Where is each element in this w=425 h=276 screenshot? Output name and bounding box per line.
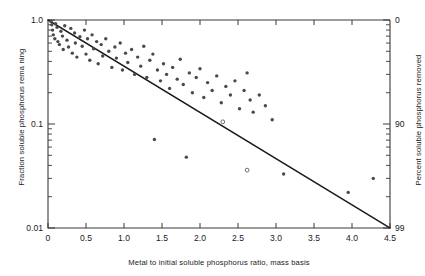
data-point	[220, 101, 223, 104]
data-point	[124, 51, 127, 54]
data-point	[224, 85, 227, 88]
data-point	[92, 47, 95, 50]
data-point	[63, 24, 66, 27]
x-axis-tick-label: 3.5	[308, 233, 320, 243]
data-point	[104, 37, 107, 40]
data-point	[83, 28, 86, 31]
y-axis-label-left: Fraction soluble phosphorus rema ning	[14, 12, 28, 222]
data-point	[221, 120, 225, 124]
data-point	[229, 93, 232, 96]
data-point	[107, 50, 110, 53]
data-point	[210, 89, 213, 92]
data-point	[101, 54, 104, 57]
data-point	[258, 93, 261, 96]
data-point	[69, 27, 72, 30]
data-point	[198, 67, 201, 70]
y-axis-label-right: Percent soluble phosphorus removed	[411, 15, 425, 225]
data-point	[282, 172, 285, 175]
data-point	[168, 87, 171, 90]
y-axis-label-right-text: Percent soluble phosphorus removed	[414, 55, 423, 186]
x-axis-tick-label: 4.0	[346, 233, 358, 243]
data-point	[113, 45, 116, 48]
data-point	[49, 20, 52, 23]
x-axis-tick-label: 4.5	[384, 233, 396, 243]
data-point	[84, 52, 87, 55]
data-point	[81, 44, 84, 47]
data-point	[206, 81, 209, 84]
data-point	[148, 59, 151, 62]
data-point	[96, 62, 99, 65]
data-point	[248, 98, 251, 101]
x-axis-tick-label: 2.0	[194, 233, 206, 243]
data-point	[238, 107, 241, 110]
regression-line	[48, 20, 390, 228]
x-axis-label: Metal to initial soluble phosphorus rati…	[48, 251, 390, 269]
data-point	[264, 104, 267, 107]
data-point	[52, 33, 55, 36]
data-point	[347, 191, 350, 194]
data-point	[191, 91, 194, 94]
data-point	[119, 41, 122, 44]
data-point	[372, 177, 375, 180]
data-point	[126, 61, 129, 64]
data-point	[55, 26, 58, 29]
data-point	[90, 33, 93, 36]
data-point	[61, 34, 64, 37]
data-point	[54, 22, 57, 25]
data-point	[73, 31, 76, 34]
data-point	[78, 35, 81, 38]
data-point	[271, 118, 274, 121]
data-point	[145, 76, 148, 79]
data-point	[133, 73, 136, 76]
data-point	[188, 71, 191, 74]
data-point	[233, 79, 236, 82]
data-point	[242, 89, 245, 92]
x-axis-tick-label: 2.5	[232, 233, 244, 243]
data-point	[202, 96, 205, 99]
y-axis-tick-label: 0.1	[31, 119, 43, 129]
data-point	[195, 76, 198, 79]
data-point	[151, 52, 154, 55]
data-point	[50, 23, 53, 26]
y2-axis-tick-label: 90	[395, 119, 405, 129]
x-axis-tick-label: 3.0	[270, 233, 282, 243]
data-point	[165, 73, 168, 76]
data-point	[62, 48, 65, 51]
x-axis-tick-label: 0.5	[80, 233, 92, 243]
data-point	[67, 45, 70, 48]
y-axis-label-left-text: Fraction soluble phosphorus rema ning	[17, 49, 26, 186]
data-point	[130, 48, 133, 51]
data-point	[121, 68, 124, 71]
data-point	[171, 66, 174, 69]
data-point	[88, 59, 91, 62]
figure-container: 00.51.01.52.02.53.03.54.04.51.00.10.0109…	[0, 0, 425, 276]
data-point	[156, 68, 159, 71]
data-point	[86, 37, 89, 40]
data-point	[162, 62, 165, 65]
x-axis-tick-label: 1.0	[118, 233, 130, 243]
data-point	[252, 110, 255, 113]
data-point	[95, 40, 98, 43]
data-point	[71, 51, 74, 54]
y-axis-tick-label: 1.0	[31, 15, 43, 25]
data-point	[65, 38, 68, 41]
data-point	[58, 43, 61, 46]
data-point	[74, 41, 77, 44]
data-point	[59, 30, 62, 33]
data-point	[185, 155, 188, 158]
data-point	[110, 66, 113, 69]
data-point	[215, 74, 218, 77]
data-point	[179, 57, 182, 60]
data-point	[75, 55, 78, 58]
data-point	[115, 56, 118, 59]
y-axis-tick-label: 0.01	[26, 223, 43, 233]
data-point	[176, 77, 179, 80]
data-point	[245, 71, 248, 74]
data-point	[139, 64, 142, 67]
data-point	[153, 138, 156, 141]
data-point	[142, 44, 145, 47]
data-point	[56, 40, 59, 43]
y2-axis-tick-label: 0	[395, 15, 400, 25]
x-axis-tick-label: 1.5	[156, 233, 168, 243]
data-point	[159, 79, 162, 82]
